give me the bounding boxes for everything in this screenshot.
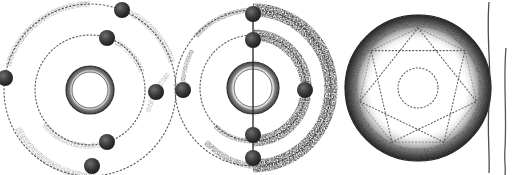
figure-1-electron xyxy=(148,84,164,100)
figure-1-electron xyxy=(84,158,100,174)
figure-2-electron xyxy=(245,6,261,22)
figure-2-electron xyxy=(175,82,191,98)
figure-2-electron xyxy=(245,127,261,143)
figure-2-bohr-atom-shaded-orbits-with-axis xyxy=(175,6,331,166)
figure-3-stippled-sphere-with-star-polygon xyxy=(345,15,491,161)
plate-canvas xyxy=(0,0,512,175)
figure-4-contour-line-right xyxy=(505,48,506,175)
figure-1-electron xyxy=(99,134,115,150)
figure-2-electron xyxy=(245,32,261,48)
figure-1-electron xyxy=(114,2,130,18)
figure-1-electron xyxy=(99,30,115,46)
figure-2-electron xyxy=(245,150,261,166)
figure-1-nucleus-inner-edge xyxy=(72,72,108,108)
figure-1-electron xyxy=(0,70,13,86)
figure-2-electron xyxy=(297,82,313,98)
figure-1-bohr-atom-plain-orbits xyxy=(0,2,176,175)
illustration-plate xyxy=(0,0,512,175)
